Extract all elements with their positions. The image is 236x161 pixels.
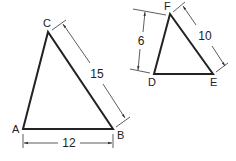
dimension-ab-label: 12 <box>62 136 76 150</box>
triangle-def: F D E 6 10 <box>130 0 228 88</box>
dimension-bc-label: 15 <box>90 67 104 81</box>
vertex-b-label: B <box>117 129 124 141</box>
vertex-a-label: A <box>12 123 20 135</box>
dimension-ef: 10 <box>173 2 228 72</box>
dimension-ab: 12 <box>23 134 113 150</box>
vertex-f-label: F <box>164 0 171 12</box>
dimension-ef-label: 10 <box>198 29 212 43</box>
triangle-abc: A C B 12 15 <box>12 17 130 150</box>
similar-triangles-diagram: A C B 12 15 F D E 6 <box>0 0 236 161</box>
dimension-df: 6 <box>130 9 166 73</box>
dimension-df-label: 6 <box>138 34 145 48</box>
dimension-bc: 15 <box>52 20 130 127</box>
vertex-e-label: E <box>210 76 217 88</box>
vertex-d-label: D <box>148 76 156 88</box>
vertex-c-label: C <box>43 17 51 29</box>
